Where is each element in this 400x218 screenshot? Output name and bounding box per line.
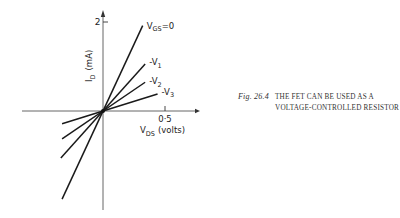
series-label: VGS=0 [147, 21, 175, 33]
y-axis-arrow [101, 10, 105, 17]
x-axis-arrow [195, 109, 200, 113]
figure-number: Fig. 26.4 [238, 91, 269, 102]
x-tick-label: 0·5 [158, 114, 172, 124]
series-label: -V2 [149, 76, 162, 89]
series-labels: VGS=0-V1-V2-V3 [147, 21, 175, 100]
axes [22, 10, 200, 210]
origin-point [101, 109, 105, 113]
series-label: -V1 [149, 57, 162, 70]
series-label: -V3 [162, 87, 175, 100]
series-lines [61, 26, 158, 200]
x-axis-title: VDS(volts) [140, 125, 185, 138]
series-line [62, 94, 157, 124]
y-tick-label: 2 [95, 17, 101, 27]
y-axis-title: ID(mA) [84, 50, 97, 82]
caption-text: The FET can be used as a voltage-control… [275, 92, 400, 114]
